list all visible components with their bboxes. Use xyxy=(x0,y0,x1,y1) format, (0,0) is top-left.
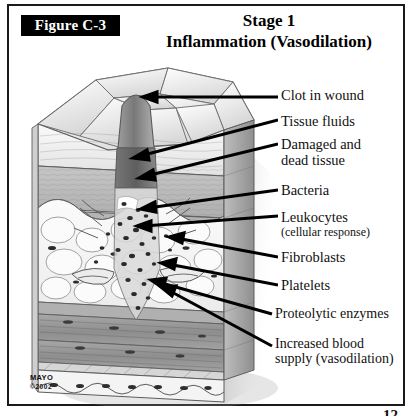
label-damaged-dead-tissue: Damaged and dead tissue xyxy=(281,137,361,168)
skin-cross-section-svg xyxy=(18,58,278,406)
page-number: 12 xyxy=(383,407,398,416)
mayo-copyright: ©2002 xyxy=(30,383,53,392)
figure-title: Stage 1 Inflammation (Vasodilation) xyxy=(124,11,413,52)
figure-badge: Figure C-3 xyxy=(21,15,120,36)
figure-title-line2: Inflammation (Vasodilation) xyxy=(124,31,413,52)
label-proteolytic-enzymes: Proteolytic enzymes xyxy=(275,306,389,322)
page-frame: Figure C-3 Stage 1 Inflammation (Vasodil… xyxy=(7,4,405,406)
label-platelets: Platelets xyxy=(281,278,330,294)
label-clot-in-wound: Clot in wound xyxy=(281,88,364,104)
label-leukocytes-subtitle: (cellular response) xyxy=(281,226,370,239)
label-fibroblasts: Fibroblasts xyxy=(281,250,345,266)
label-increased-blood-supply: Increased blood supply (vasodilation) xyxy=(275,336,394,366)
label-leukocytes: Leukocytes (cellular response) xyxy=(281,210,370,239)
figure-title-line1: Stage 1 xyxy=(124,11,413,31)
label-damaged-line2: dead tissue xyxy=(281,153,361,169)
mayo-org: MAYO xyxy=(30,374,53,383)
figure-badge-label: Figure C-3 xyxy=(35,17,106,34)
figure-page: Figure C-3 Stage 1 Inflammation (Vasodil… xyxy=(0,0,413,417)
label-increased-line2: supply (vasodilation) xyxy=(275,351,394,366)
mayo-credit: MAYO ©2002 xyxy=(30,374,53,391)
skin-block-left-face xyxy=(32,124,38,392)
label-bacteria: Bacteria xyxy=(281,183,329,199)
label-tissue-fluids: Tissue fluids xyxy=(281,114,355,130)
skin-wound-illustration xyxy=(18,58,278,406)
